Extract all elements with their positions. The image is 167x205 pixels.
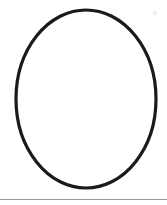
canvas-background bbox=[0, 0, 167, 205]
figure-svg bbox=[0, 0, 167, 205]
drawing-canvas: Ellipse Outline Drawing bbox=[0, 0, 167, 205]
stray-speck bbox=[153, 11, 157, 15]
